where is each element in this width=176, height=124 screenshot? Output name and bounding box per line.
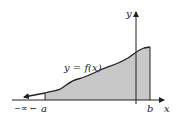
infinity-label: −∞ ← bbox=[14, 104, 37, 113]
shaded-area bbox=[45, 47, 150, 100]
upper-limit-label: b bbox=[147, 103, 153, 114]
improper-integral-diagram: y = f(x) y x b a −∞ ← bbox=[0, 0, 176, 124]
x-axis-label: x bbox=[164, 103, 170, 114]
curve-label: y = f(x) bbox=[63, 62, 102, 73]
lower-limit-label: a bbox=[41, 103, 47, 114]
y-axis-label: y bbox=[125, 8, 132, 19]
